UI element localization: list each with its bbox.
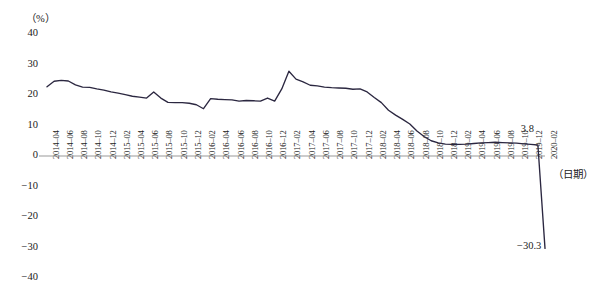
- chart-container: （%） 403020100−10−20−30−40 2014–042014–06…: [0, 0, 596, 300]
- series-line: [47, 71, 545, 248]
- line-plot: [0, 0, 596, 300]
